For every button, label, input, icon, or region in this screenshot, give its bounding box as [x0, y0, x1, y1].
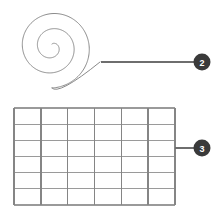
- diagram-canvas: 23: [0, 0, 220, 220]
- spiral-shape: [22, 14, 100, 90]
- spiral-path: [22, 14, 89, 88]
- callout-badge-2[interactable]: 2: [194, 54, 211, 71]
- callout-badges: 23: [194, 54, 211, 157]
- badge-circle: [194, 140, 211, 157]
- grid-shape: [14, 108, 175, 205]
- callout-badge-3[interactable]: 3: [194, 140, 211, 157]
- badge-circle: [194, 54, 211, 71]
- spiral-tail: [52, 62, 100, 90]
- diagram-svg: 23: [0, 0, 220, 220]
